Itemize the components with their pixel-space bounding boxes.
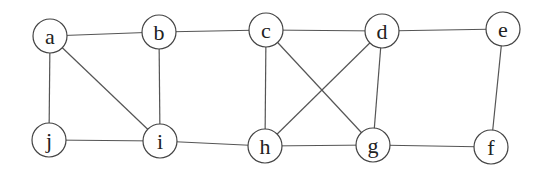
node-f: f [474,130,508,164]
node-label: g [368,133,379,158]
node-label: j [45,128,52,153]
node-label: c [261,18,271,43]
node-label: d [377,19,388,44]
edge-a-i [50,36,160,141]
node-i: i [143,124,177,158]
edges-layer [49,29,503,147]
node-g: g [356,128,390,162]
node-label: f [487,135,495,160]
node-a: a [33,19,67,53]
node-h: h [248,129,282,163]
edge-g-f [373,145,491,147]
edge-c-g [266,30,373,145]
node-label: a [45,24,55,49]
node-d: d [365,14,399,48]
graph-diagram: abcdejihgf [0,0,542,173]
node-j: j [32,123,66,157]
node-b: b [142,15,176,49]
node-label: e [498,17,508,42]
node-label: i [157,129,163,154]
edge-d-e [382,29,503,31]
node-c: c [249,13,283,47]
node-label: b [154,20,165,45]
edge-e-f [491,29,503,147]
graph-canvas: abcdejihgf [0,0,542,173]
node-label: h [260,134,271,159]
node-e: e [486,12,520,46]
